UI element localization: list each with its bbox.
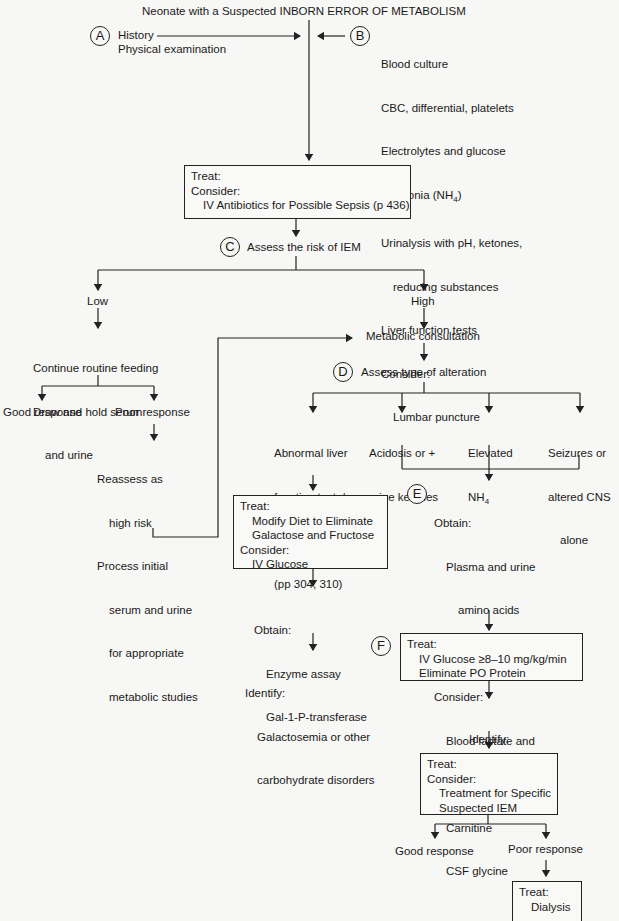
step-e-text: Obtain: Plasma and urine amino acids Uri…	[434, 487, 544, 893]
flowchart-title: Neonate with a Suspected INBORN ERROR OF…	[142, 4, 466, 19]
step-e-line: Plasma and urine	[434, 560, 544, 575]
treat-sepsis-box: Treat: Consider: IV Antibiotics for Poss…	[184, 165, 411, 219]
identify-line: carbohydrate disorders	[245, 773, 375, 788]
treat-dialysis-box: Treat: Dialysis	[512, 881, 582, 921]
box-line: IV Glucose ≥8–10 mg/kg/min	[407, 652, 576, 667]
step-a-line-1: History	[118, 28, 157, 43]
box-line: Consider:	[427, 772, 551, 787]
identify-line: Identify:	[469, 732, 509, 747]
identify-line: Galactosemia or other	[245, 730, 375, 745]
step-c-marker: C	[220, 237, 240, 257]
final-good-response: Good response	[395, 844, 474, 859]
step-b-line: Blood culture	[381, 57, 522, 72]
alteration-line: alone	[548, 533, 611, 548]
step-c-label: Assess the risk of IEM	[247, 240, 361, 255]
high-label: High	[411, 294, 435, 309]
step-f-marker: F	[371, 636, 391, 656]
step-e-line: amino acids	[434, 603, 544, 618]
step-e-marker: E	[407, 484, 427, 504]
step-a-marker: A	[90, 26, 110, 46]
step-b-line: reducing substances	[381, 280, 522, 295]
treat-specific-box: Treat: Consider: Treatment for Specific …	[420, 753, 558, 815]
alteration-line: altered CNS	[548, 490, 611, 505]
box-line: Treatment for Specific	[427, 786, 551, 801]
step-b-line: CBC, differential, platelets	[381, 101, 522, 116]
alteration-line: Acidosis or +	[369, 446, 438, 461]
box-line: Suspected IEM	[427, 801, 551, 816]
reassess-line: Reassess as	[97, 472, 198, 487]
reassess-line: high risk	[97, 516, 198, 531]
low-label: Low	[87, 294, 108, 309]
final-poor-response: Poor response	[508, 842, 583, 857]
metabolic-consultation: Metabolic consultation	[366, 329, 480, 344]
box-line: IV Antibiotics for Possible Sepsis (p 43…	[191, 198, 404, 213]
step-b-line: Electrolytes and glucose	[381, 144, 522, 159]
reassess-line: metabolic studies	[97, 690, 198, 705]
low-action-line: Continue routine feeding	[33, 361, 158, 376]
liver-treat-box: Treat: Modify Diet to Eliminate Galactos…	[233, 495, 388, 569]
box-line: Treat:	[407, 637, 576, 652]
alteration-line: (pp 304, 310)	[274, 577, 348, 592]
box-line: Treat:	[427, 757, 551, 772]
step-a-line-2: Physical examination	[118, 42, 226, 57]
step-e-line: Carnitine	[434, 821, 544, 836]
reassess-text: Reassess as high risk Process initial se…	[97, 443, 198, 719]
box-line: Consider:	[240, 543, 381, 558]
box-line: Treat:	[191, 169, 404, 184]
reassess-line: serum and urine	[97, 603, 198, 618]
step-f-box: Treat: IV Glucose ≥8–10 mg/kg/min Elimin…	[400, 633, 583, 681]
step-b-line: Urinalysis with pH, ketones,	[381, 236, 522, 251]
box-line: Eliminate PO Protein	[407, 666, 576, 681]
low-poor-response: Poor response	[115, 405, 190, 420]
reassess-line: Process initial	[97, 559, 198, 574]
liver-identify: Identify: Galactosemia or other carbohyd…	[245, 657, 375, 802]
box-line: Galactose and Fructose	[240, 528, 381, 543]
box-line: Dialysis	[519, 900, 575, 915]
step-e-line: CSF glycine	[434, 864, 544, 879]
identify-line: Identify:	[245, 686, 375, 701]
box-line: IV Glucose	[240, 557, 381, 572]
box-line: Treat:	[519, 885, 575, 900]
low-good-response: Good response	[3, 405, 82, 420]
alteration-line: Abnormal liver	[274, 446, 348, 461]
step-d-marker: D	[333, 362, 353, 382]
alteration-seizures: Seizures or altered CNS alone	[548, 417, 611, 562]
box-line: Treat:	[240, 499, 381, 514]
reassess-line: for appropriate	[97, 646, 198, 661]
obtain-line: Obtain:	[254, 623, 367, 638]
box-line: Consider:	[191, 184, 404, 199]
step-d-label: Assess type of alteration	[361, 365, 486, 380]
box-line: Modify Diet to Eliminate	[240, 514, 381, 529]
step-b-marker: B	[350, 26, 370, 46]
alteration-line: Elevated	[468, 446, 513, 461]
step-e-line: Obtain:	[434, 516, 544, 531]
alteration-line: Seizures or	[548, 446, 611, 461]
